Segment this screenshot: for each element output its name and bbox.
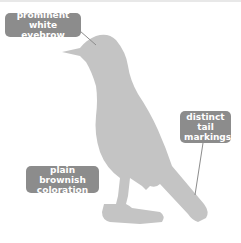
label-tail-line1: distinct tail [184,112,227,132]
label-tail-markings: distinct tail markings [180,111,231,143]
label-tail-line2: markings [184,132,227,142]
label-eyebrow-line1: prominent [9,10,77,20]
label-coloration-line2: coloration [30,185,95,195]
label-eyebrow-line2: white eyebrow [9,20,77,40]
label-coloration: plain brownish coloration [26,166,99,193]
label-coloration-line1: plain brownish [30,165,95,185]
tail-leader-line [195,143,203,195]
label-eyebrow: prominent white eyebrow [5,13,81,37]
